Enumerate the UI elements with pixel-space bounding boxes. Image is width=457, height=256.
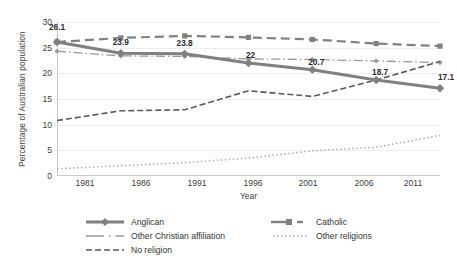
- marker-catholic-2011: [437, 44, 442, 49]
- legend-item-no-religion[interactable]: No religion: [85, 244, 172, 256]
- marker-anglican-1981: [53, 38, 61, 46]
- series-line-other-religions: [57, 135, 440, 168]
- marker-catholic-1996: [246, 35, 251, 40]
- data-label-anglican-2001: 20.7: [308, 57, 324, 67]
- data-label-anglican-1981: 26.1: [49, 22, 65, 32]
- legend-key-other-christian-icon: [85, 230, 125, 242]
- marker-anglican-2001: [308, 66, 316, 74]
- x-tick-1986: 1986: [131, 178, 150, 188]
- marker-catholic-2001: [310, 37, 315, 42]
- legend-item-other-christian[interactable]: Other Christian affiliation: [85, 230, 225, 242]
- marker-anglican-2011: [436, 84, 444, 92]
- marker-other-christian-affiliation-2006: [374, 58, 379, 63]
- x-axis-tick-labels: 1981 1986 1991 1996 2001 2006 2011: [57, 178, 440, 192]
- x-axis-title: Year: [57, 191, 440, 201]
- marker-anglican-1996: [244, 59, 252, 67]
- marker-anglican-2006: [372, 76, 380, 84]
- x-tick-1996: 1996: [243, 178, 262, 188]
- legend-key-catholic-icon: [270, 216, 310, 228]
- legend-label-anglican: Anglican: [131, 216, 164, 228]
- data-label-anglican-2011: 17.1: [438, 72, 454, 82]
- data-label-anglican-1986: 23.9: [113, 37, 129, 47]
- legend-key-anglican-icon: [85, 216, 125, 228]
- legend-label-other-religions: Other religions: [316, 230, 372, 242]
- legend-label-other-christian: Other Christian affiliation: [131, 230, 225, 242]
- data-label-anglican-1996: 22: [246, 50, 255, 60]
- legend-key-no-religion-icon: [85, 244, 125, 256]
- legend-item-anglican[interactable]: Anglican: [85, 216, 164, 228]
- chart-legend: Anglican Other Christian affiliation No …: [85, 216, 415, 256]
- legend-label-catholic: Catholic: [316, 216, 347, 228]
- x-tick-1981: 1981: [75, 178, 94, 188]
- legend-label-no-religion: No religion: [131, 244, 172, 256]
- x-tick-2001: 2001: [298, 178, 317, 188]
- data-label-anglican-2006: 18.7: [372, 67, 388, 77]
- x-tick-2006: 2006: [354, 178, 373, 188]
- x-tick-2011: 2011: [404, 178, 422, 188]
- marker-catholic-2006: [374, 41, 379, 46]
- legend-item-catholic[interactable]: Catholic: [270, 216, 347, 228]
- legend-item-other-religions[interactable]: Other religions: [270, 230, 372, 242]
- legend-key-other-religions-icon: [270, 230, 310, 242]
- x-tick-1991: 1991: [187, 178, 206, 188]
- line-chart: Percentage of Australian population 30 2…: [0, 0, 457, 256]
- marker-other-christian-affiliation-1981: [54, 49, 59, 54]
- data-label-anglican-1991: 23.8: [177, 38, 193, 48]
- marker-anglican-1991: [180, 50, 188, 58]
